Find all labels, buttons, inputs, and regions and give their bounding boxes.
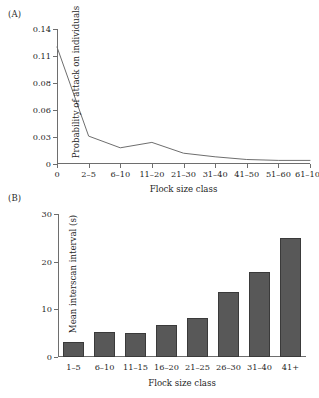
figure-container: (A) 00.030.060.080.110.14 02–56–1011–202… (0, 0, 319, 398)
panel-a-y-axis-title: Probability of attack on individuals (71, 0, 81, 177)
panel-a-x-tick (184, 164, 185, 168)
panel-a-x-tick-label: 0 (54, 170, 59, 178)
panel-b-x-tick-label: 16–20 (154, 363, 179, 371)
panel-a-x-tick (215, 164, 216, 168)
panel-a-x-tick-label: 41–50 (234, 170, 259, 178)
panel-a-x-tick-label: 21–30 (171, 170, 196, 178)
panel-a-x-tick (278, 164, 279, 168)
panel-a-x-tick (152, 164, 153, 168)
panel-a-line-chart: (A) 00.030.060.080.110.14 02–56–1011–202… (0, 0, 319, 196)
panel-b-x-tick-label: 6–10 (95, 363, 115, 371)
panel-b-y-tick-label: 30 (42, 210, 52, 218)
panel-a-y-tick-label: 0.03 (33, 133, 51, 141)
panel-b-y-tick (54, 357, 58, 358)
bar (249, 272, 269, 357)
panel-a-y-tick-label: 0 (46, 160, 51, 168)
panel-b-label: (B) (8, 193, 21, 203)
panel-a-x-tick-label: 31–40 (203, 170, 228, 178)
panel-b-x-tick-label: 26–30 (216, 363, 241, 371)
panel-b-y-axis (58, 214, 59, 357)
panel-a-y-tick-label: 0.06 (33, 106, 51, 114)
panel-a-data-line (57, 29, 310, 164)
bar (187, 318, 207, 357)
panel-a-x-tick-label: 61–100 (295, 170, 319, 178)
panel-b-y-axis-title: Mean interscan interval (s) (68, 179, 78, 369)
panel-b-y-tick-label: 20 (42, 258, 52, 266)
panel-a-x-tick (120, 164, 121, 168)
bar (94, 332, 114, 357)
panel-b-y-tick (54, 309, 58, 310)
panel-a-label: (A) (8, 9, 21, 19)
panel-a-x-tick (89, 164, 90, 168)
panel-b-x-tick-label: 11–15 (123, 363, 148, 371)
panel-a-x-tick-label: 6–10 (110, 170, 130, 178)
panel-a-x-tick-label: 51–60 (266, 170, 291, 178)
panel-a-y-tick-label: 0.08 (33, 79, 51, 87)
panel-b-y-tick (54, 262, 58, 263)
panel-a-plot-area: 00.030.060.080.110.14 02–56–1011–2021–30… (57, 29, 310, 164)
bar (280, 238, 300, 357)
panel-b-x-tick-label: 21–25 (185, 363, 210, 371)
bar (218, 292, 238, 357)
panel-b-x-tick-label: 31–40 (247, 363, 272, 371)
panel-b-y-tick (54, 214, 58, 215)
panel-a-y-tick-label: 0.11 (33, 52, 51, 60)
panel-b-plot-area: 0102030 1–56–1011–1516–2021–2526–3031–40… (58, 214, 306, 357)
panel-b-bar-chart: (B) 0102030 1–56–1011–1516–2021–2526–303… (0, 192, 319, 398)
bar (125, 333, 145, 357)
panel-a-x-tick (247, 164, 248, 168)
panel-b-y-tick-label: 10 (42, 305, 52, 313)
panel-b-y-tick-label: 0 (47, 353, 52, 361)
panel-a-x-tick-label: 11–20 (139, 170, 164, 178)
bar (156, 325, 176, 357)
panel-b-x-tick-label: 41+ (282, 363, 299, 371)
panel-a-y-tick-label: 0.14 (33, 25, 51, 33)
panel-a-x-tick-label: 2–5 (81, 170, 96, 178)
panel-b-x-axis-title: Flock size class (58, 378, 306, 388)
panel-a-x-tick (310, 164, 311, 168)
panel-a-x-tick (57, 164, 58, 168)
